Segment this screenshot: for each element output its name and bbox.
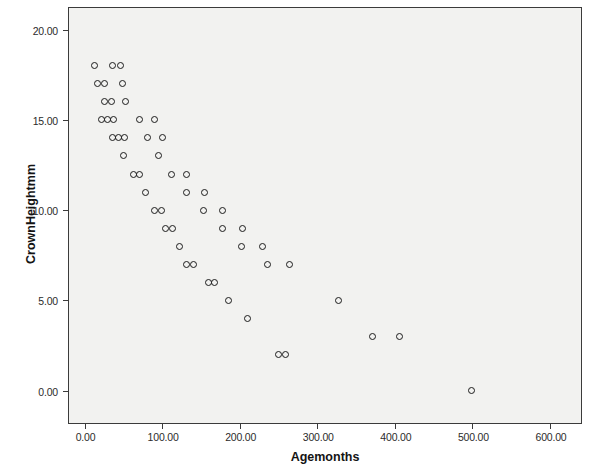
data-point bbox=[183, 189, 190, 196]
y-axis-tick: 20.00 bbox=[63, 30, 69, 31]
data-point bbox=[468, 387, 475, 394]
y-axis-tick: 10.00 bbox=[63, 210, 69, 211]
data-point bbox=[211, 279, 218, 286]
data-point bbox=[122, 98, 129, 105]
data-point bbox=[91, 62, 98, 69]
data-point bbox=[142, 189, 149, 196]
data-point bbox=[159, 134, 166, 141]
data-point bbox=[190, 261, 197, 268]
x-axis-tick: 200.00 bbox=[240, 423, 241, 429]
y-axis-tick: 5.00 bbox=[63, 300, 69, 301]
x-axis-tick-label: 500.00 bbox=[458, 431, 489, 443]
y-axis-tick-label: 5.00 bbox=[38, 295, 58, 307]
x-axis-tick: 100.00 bbox=[162, 423, 163, 429]
data-point bbox=[168, 171, 175, 178]
data-point bbox=[282, 351, 289, 358]
data-point bbox=[244, 315, 251, 322]
data-point bbox=[117, 62, 124, 69]
x-axis-tick-label: 100.00 bbox=[148, 431, 179, 443]
y-axis-tick-label: 0.00 bbox=[38, 386, 58, 398]
x-axis-tick: 400.00 bbox=[395, 423, 396, 429]
data-point bbox=[183, 261, 190, 268]
data-point bbox=[335, 297, 342, 304]
y-axis-tick: 0.00 bbox=[63, 391, 69, 392]
data-point bbox=[158, 207, 165, 214]
data-point bbox=[101, 98, 108, 105]
data-point bbox=[286, 261, 293, 268]
plot-frame: 0.005.0010.0015.0020.000.00100.00200.003… bbox=[68, 7, 582, 424]
data-point bbox=[110, 116, 117, 123]
data-point bbox=[225, 297, 232, 304]
data-point bbox=[162, 225, 169, 232]
data-point bbox=[275, 351, 282, 358]
data-point bbox=[200, 207, 207, 214]
data-point bbox=[121, 134, 128, 141]
data-point bbox=[201, 189, 208, 196]
x-axis-tick: 600.00 bbox=[550, 423, 551, 429]
x-axis-tick-label: 400.00 bbox=[380, 431, 411, 443]
data-point bbox=[151, 207, 158, 214]
data-point bbox=[239, 225, 246, 232]
data-point bbox=[101, 80, 108, 87]
data-point bbox=[136, 171, 143, 178]
data-point bbox=[94, 80, 101, 87]
data-point bbox=[109, 62, 116, 69]
data-point bbox=[219, 207, 226, 214]
data-point bbox=[108, 98, 115, 105]
data-point bbox=[169, 225, 176, 232]
scatter-plot-figure: 0.005.0010.0015.0020.000.00100.00200.003… bbox=[0, 0, 590, 475]
data-point bbox=[176, 243, 183, 250]
data-point bbox=[183, 171, 190, 178]
data-point bbox=[219, 225, 226, 232]
data-point bbox=[264, 261, 271, 268]
x-axis-tick-label: 200.00 bbox=[225, 431, 256, 443]
data-point bbox=[155, 152, 162, 159]
y-axis-tick: 15.00 bbox=[63, 120, 69, 121]
y-axis-title: CrownHeightmm bbox=[24, 104, 38, 324]
data-point bbox=[151, 116, 158, 123]
y-axis-tick-label: 20.00 bbox=[33, 25, 58, 37]
x-axis-tick-label: 600.00 bbox=[536, 431, 567, 443]
data-point bbox=[120, 152, 127, 159]
data-point bbox=[136, 116, 143, 123]
x-axis-tick: 500.00 bbox=[472, 423, 473, 429]
data-point bbox=[396, 333, 403, 340]
x-axis-tick: 300.00 bbox=[317, 423, 318, 429]
data-point bbox=[369, 333, 376, 340]
x-axis-tick-label: 300.00 bbox=[303, 431, 334, 443]
data-point bbox=[119, 80, 126, 87]
plot-data-area bbox=[69, 8, 581, 423]
x-axis-tick: 0.00 bbox=[85, 423, 86, 429]
data-point bbox=[238, 243, 245, 250]
x-axis-title: Agemonths bbox=[68, 450, 582, 464]
x-axis-tick-label: 0.00 bbox=[76, 431, 96, 443]
data-point bbox=[144, 134, 151, 141]
data-point bbox=[259, 243, 266, 250]
